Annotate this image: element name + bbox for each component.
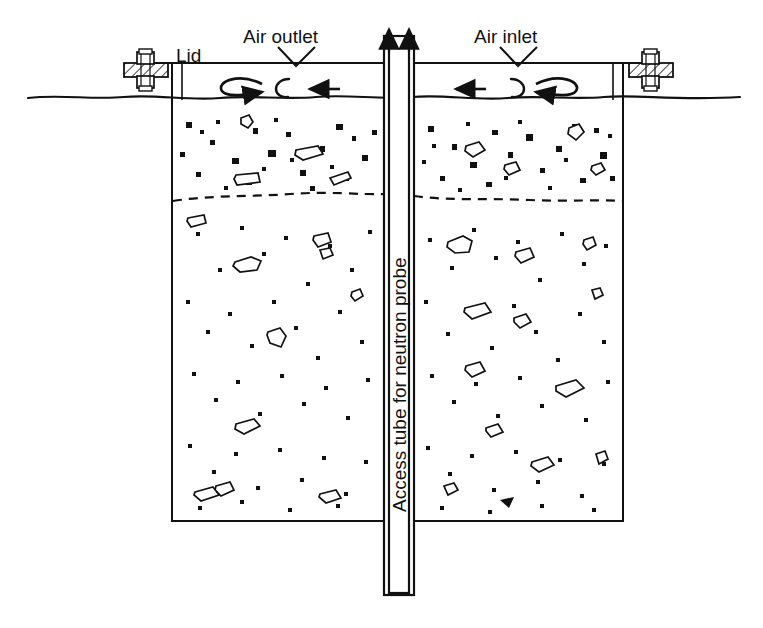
lysimeter-diagram: Lid Air outlet Air inlet Access tube for… [0, 0, 763, 628]
access-tube-label: Access tube for neutron probe [389, 257, 410, 512]
lower-soil-dark-chip [500, 497, 514, 508]
upper-soil-outlined-stones [234, 115, 605, 185]
lid-bolt-left [124, 49, 168, 91]
lid-bolt-right [629, 49, 673, 91]
airflow-outlet [221, 78, 340, 97]
air-outlet-label: Air outlet [243, 26, 319, 47]
figure-canvas: Lid Air outlet Air inlet Access tube for… [0, 0, 763, 628]
lid-label: Lid [176, 45, 201, 66]
air-inlet-label: Air inlet [474, 26, 538, 47]
airflow-inlet [456, 78, 577, 97]
figure-caption [4, 612, 759, 628]
